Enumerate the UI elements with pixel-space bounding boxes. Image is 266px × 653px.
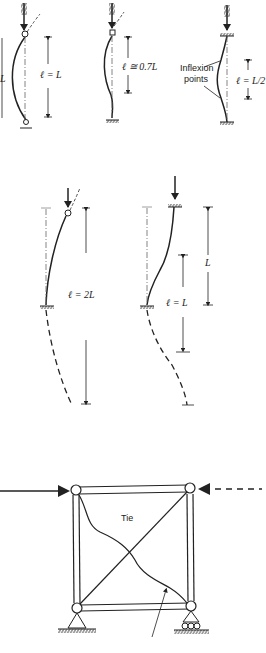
effective-length-label: ℓ = 2L: [68, 289, 95, 300]
inflexion-label-1: Inflexion: [180, 63, 214, 73]
panel-fixed-fixed-sway: L ℓ = L: [140, 176, 213, 405]
buckling-diagram: L ℓ = L ℓ ≅ 0.7L Inflex: [0, 0, 266, 653]
side-label-L: L: [0, 73, 6, 84]
panel-fixed-fixed: Inflexion points ℓ = L/2: [180, 5, 265, 125]
effective-length-label: ℓ = L/2: [236, 75, 265, 86]
panel-fixed-pinned: ℓ ≅ 0.7L: [104, 3, 157, 123]
side-label-L: L: [204, 257, 211, 268]
effective-length-label: ℓ ≅ 0.7L: [122, 61, 158, 72]
braced-frame: Tie: [0, 483, 262, 637]
load-arrow-icon: [198, 483, 210, 495]
effective-length-label: ℓ = L: [40, 69, 62, 80]
load-arrow-icon: [58, 485, 70, 497]
tie-label: Tie: [121, 513, 133, 523]
panel-pinned-pinned: L ℓ = L: [0, 3, 62, 128]
panel-fixed-free: ℓ = 2L: [40, 188, 95, 405]
load-arrow-icon: [20, 3, 28, 31]
inflexion-label-2: points: [184, 74, 209, 84]
effective-length-label: ℓ = L: [166, 297, 188, 308]
